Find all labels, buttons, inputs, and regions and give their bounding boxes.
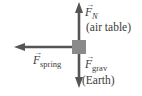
normal-force-label: →FN [85,7,98,19]
normal-force-arrow [75,2,83,40]
gravity-force-label: F→Fgrav [85,59,107,71]
gravity-force-source: (Earth) [82,75,115,87]
spring-force-arrow [14,43,72,51]
vector-arrow-mark: → [86,1,94,9]
spring-force-label: →Fspring [33,55,61,67]
vector-arrow-mark: → [34,49,42,57]
diagram-graphics [0,0,142,96]
force-subscript: spring [40,59,61,69]
vector-arrow-mark: → [86,53,94,61]
free-body-diagram: →FN (air table) →Fspring F→Fgrav (Earth) [0,0,142,96]
force-subscript: grav [92,63,107,73]
object-square [72,40,86,54]
normal-force-source: (air table) [86,22,131,34]
force-subscript: N [92,11,98,21]
